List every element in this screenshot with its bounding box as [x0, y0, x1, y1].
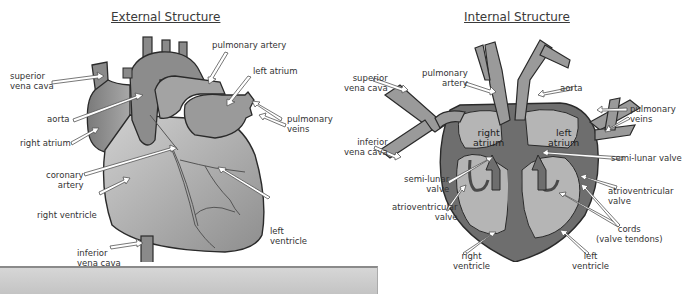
label-ext-left-atrium: left atrium	[253, 66, 298, 76]
label-ext-aorta: aorta	[47, 114, 69, 124]
label-int-right-ventricle: right ventricle	[453, 251, 490, 271]
label-int-left-ventricle: left ventricle	[572, 251, 609, 271]
label-int-right-atrium: right atrium	[473, 128, 504, 148]
label-ext-left-ventricle: left ventricle	[270, 226, 307, 246]
label-ext-superior-vena-cava: superior vena cava	[10, 71, 54, 91]
label-ext-right-atrium: right atrium	[20, 138, 71, 148]
label-int-cords: cords (valve tendons)	[596, 224, 663, 244]
label-int-semi-lunar-valve-right: semi-lunar valve	[611, 153, 682, 163]
label-ext-pulmonary-veins: pulmonary veins	[287, 114, 333, 134]
label-int-atrioventricular-valve-left: atrioventricular valve	[392, 202, 458, 222]
label-int-semi-lunar-valve-left: semi-lunar valve	[404, 174, 449, 194]
label-ext-right-ventricle: right ventricle	[37, 210, 97, 220]
label-ext-inferior-vena-cava: inferior vena cava	[77, 248, 121, 268]
external-structure-panel: External Structure	[0, 0, 340, 262]
label-ext-coronary-artery: coronary artery	[46, 170, 84, 190]
internal-heart-illustration	[340, 0, 685, 262]
label-int-aorta: aorta	[560, 83, 582, 93]
label-int-pulmonary-artery: pulmonary artery	[422, 68, 468, 88]
label-ext-pulmonary-artery: pulmonary artery	[212, 40, 286, 50]
internal-structure-panel: Internal Structure	[340, 0, 685, 262]
label-int-inferior-vena-cava: inferior vena cava	[344, 137, 388, 157]
label-int-atrioventricular-valve-right: atrioventricular valve	[608, 186, 674, 206]
label-int-left-atrium: left atrium	[548, 128, 579, 148]
label-int-superior-vena-cava: superior vena cava	[344, 73, 388, 93]
bottom-bar	[0, 266, 378, 294]
label-int-pulmonary-veins: pulmonary veins	[630, 104, 676, 124]
